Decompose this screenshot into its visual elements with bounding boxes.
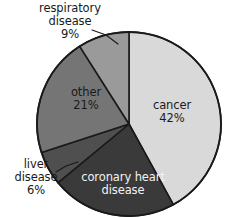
slice-label-other-percent: 21% <box>57 99 115 112</box>
slice-label-coronary-heart-disease: coronary heart disease <box>72 171 174 197</box>
slice-label-coronary-heart-disease-line2: disease <box>72 184 174 197</box>
slice-label-other: other 21% <box>57 86 115 112</box>
slice-label-cancer-name: cancer <box>139 99 205 112</box>
slice-label-respiratory-disease: respiratory disease 9% <box>18 2 122 41</box>
slice-label-liver-disease: liver disease 6% <box>0 158 72 197</box>
slice-label-other-name: other <box>57 86 115 99</box>
slice-label-cancer-percent: 42% <box>139 112 205 125</box>
slice-label-cancer: cancer 42% <box>139 99 205 125</box>
slice-label-respiratory-disease-line1: respiratory <box>18 2 122 15</box>
slice-label-respiratory-disease-line2: disease <box>18 15 122 28</box>
slice-label-coronary-heart-disease-line1: coronary heart <box>72 171 174 184</box>
slice-label-respiratory-disease-percent: 9% <box>18 28 122 41</box>
pie-chart: respiratory disease 9% liver disease 6% … <box>0 0 232 218</box>
slice-label-liver-disease-line2: disease <box>0 171 72 184</box>
slice-label-liver-disease-line1: liver <box>0 158 72 171</box>
slice-label-liver-disease-percent: 6% <box>0 184 72 197</box>
